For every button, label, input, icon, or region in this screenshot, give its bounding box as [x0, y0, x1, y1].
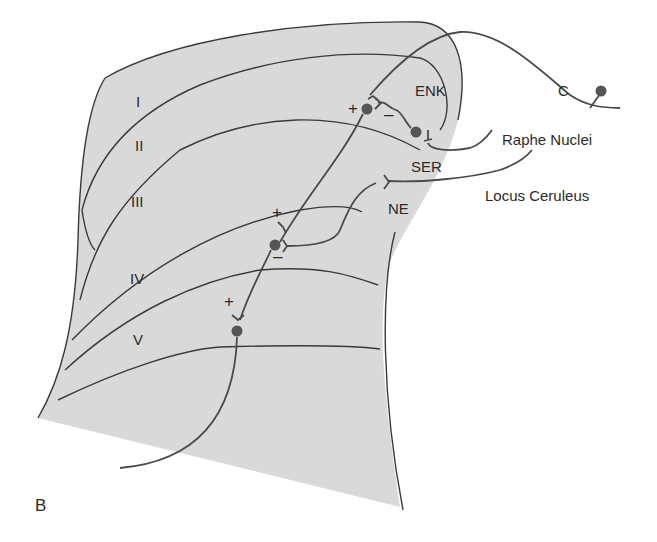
layer-label-I: I [136, 93, 140, 110]
enk-interneuron-soma [411, 127, 422, 138]
enk-minus-sign: – [384, 105, 394, 124]
locus-ceruleus-label: Locus Ceruleus [485, 187, 589, 204]
ser-label: SER [411, 158, 442, 175]
enk-label: ENK [415, 82, 446, 99]
enk-plus-sign: + [348, 99, 358, 118]
lamina-V-neuron-soma [232, 326, 243, 337]
layer-label-III: III [131, 193, 144, 210]
c-fiber-label: C [558, 82, 569, 99]
lamina2-minus-sign: – [273, 247, 283, 266]
raphe-nuclei-label: Raphe Nuclei [502, 131, 592, 148]
lamina2-plus-sign: + [272, 203, 282, 222]
layer-label-IV: IV [130, 270, 144, 287]
layer-label-V: V [133, 331, 143, 348]
panel-label: B [35, 496, 46, 515]
dorsal-horn-tissue [38, 22, 462, 507]
ne-label: NE [388, 200, 409, 217]
dorsal-horn-diagram: I II III IV V ENK SER NE C Raphe Nuclei … [0, 0, 657, 542]
lamina-I-projection-soma [362, 104, 373, 115]
layer-label-II: II [135, 137, 143, 154]
c-fiber-soma [596, 86, 607, 97]
lamina5-plus-sign: + [224, 292, 234, 311]
